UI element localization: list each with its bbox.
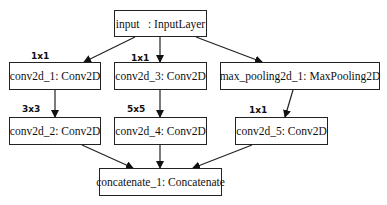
edge-label-conv2d_4: 5x5 [127,104,145,114]
node-conv2d_3: conv2d_3: Conv2D [114,62,207,90]
edge-input-maxpool [196,37,262,62]
node-max_pooling2d_1: max_pooling2d_1: MaxPooling2D [220,62,380,90]
edge-input-conv2d_1 [84,37,135,62]
node-conv2d_4: conv2d_4: Conv2D [114,117,207,145]
node-conv2d_5: conv2d_5: Conv2D [235,117,328,145]
node-conv2d_2: conv2d_2: Conv2D [9,117,101,145]
edge-conv2d_2-concat [82,145,133,168]
edge-conv2d_5-concat [193,145,252,168]
edge-label-conv2d_5: 1x1 [249,105,267,115]
edge-label-conv2d_2: 3x3 [22,104,40,114]
edge-maxpool-conv2d_5 [285,90,293,117]
node-input: input : InputLayer [114,10,207,37]
edge-label-conv2d_1: 1x1 [31,51,49,61]
node-conv2d_1: conv2d_1: Conv2D [9,62,101,90]
node-concatenate_1: concatenate_1: Concatenate [99,168,222,196]
